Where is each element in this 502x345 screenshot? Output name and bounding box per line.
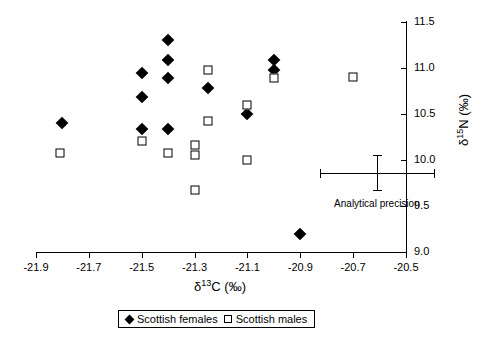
analytical-precision-label: Analytical precision (317, 198, 437, 209)
y-tick-label: 10.0 (414, 153, 435, 166)
data-point-female (162, 34, 175, 47)
x-tick-label: -21.1 (221, 261, 273, 274)
x-tick-label: -21.5 (116, 261, 168, 274)
data-point-female (241, 108, 254, 121)
data-point-male (190, 186, 199, 195)
data-point-female (201, 82, 214, 95)
x-axis-title-rest: C (‰) (211, 279, 246, 294)
data-point-female (162, 72, 175, 85)
open-square-icon (224, 315, 232, 323)
legend-label-scottish-males: Scottish males (236, 313, 308, 325)
legend-label-scottish-females: Scottish females (137, 313, 218, 325)
legend-item-scottish-males[interactable]: Scottish males (224, 313, 308, 325)
data-point-female (162, 122, 175, 135)
x-tick (89, 253, 90, 258)
y-tick (401, 160, 406, 161)
y-axis-title: δ15N (‰) (455, 94, 471, 146)
plot-area (36, 18, 406, 252)
y-tick (401, 68, 406, 69)
x-tick-label: -20.7 (327, 261, 379, 274)
data-point-female (56, 117, 69, 130)
data-point-female (294, 227, 307, 240)
data-point-male (164, 148, 173, 157)
data-point-male (190, 141, 199, 150)
data-point-male (203, 117, 212, 126)
data-point-male (137, 136, 146, 145)
y-tick (401, 22, 406, 23)
x-tick-label: -20.9 (274, 261, 326, 274)
y-axis-line (406, 21, 407, 253)
data-point-male (190, 151, 199, 160)
x-axis-title-superscript: 13 (201, 278, 211, 288)
x-tick (142, 253, 143, 258)
x-tick (36, 253, 37, 258)
legend: Scottish females Scottish males (118, 310, 315, 328)
data-point-female (135, 122, 148, 135)
x-tick-label: -21.7 (63, 261, 115, 274)
x-tick-label: -21.9 (10, 261, 62, 274)
x-tick-label: -20.5 (380, 261, 432, 274)
data-point-male (243, 156, 252, 165)
y-tick (401, 252, 406, 253)
x-tick (195, 253, 196, 258)
data-point-female (135, 91, 148, 104)
data-point-male (243, 100, 252, 109)
y-tick-label: 10.5 (414, 107, 435, 120)
x-tick (353, 253, 354, 258)
filled-diamond-icon (125, 314, 135, 324)
scatter-chart: -21.9-21.7-21.5-21.3-21.1-20.9-20.7-20.5… (0, 0, 502, 345)
data-point-male (203, 65, 212, 74)
x-tick (247, 253, 248, 258)
y-tick-label: 11.5 (414, 15, 435, 28)
y-axis-title-rest: N (‰) (456, 94, 471, 129)
data-point-male (269, 74, 278, 83)
y-axis-title-delta: δ (456, 139, 471, 146)
x-tick-label: -21.3 (169, 261, 221, 274)
legend-item-scottish-females[interactable]: Scottish females (126, 313, 218, 325)
y-axis-title-superscript: 15 (455, 129, 465, 139)
y-tick (401, 114, 406, 115)
y-tick-label: 11.0 (414, 61, 435, 74)
x-tick (300, 253, 301, 258)
x-axis-title: δ13C (‰) (0, 278, 440, 294)
errorbar-cap-right (434, 169, 435, 178)
data-point-female (162, 53, 175, 66)
y-tick-label: 9.0 (414, 245, 429, 258)
x-axis-line (36, 252, 407, 253)
data-point-female (135, 66, 148, 79)
data-point-male (349, 73, 358, 82)
data-point-male (55, 148, 64, 157)
x-tick (406, 253, 407, 258)
